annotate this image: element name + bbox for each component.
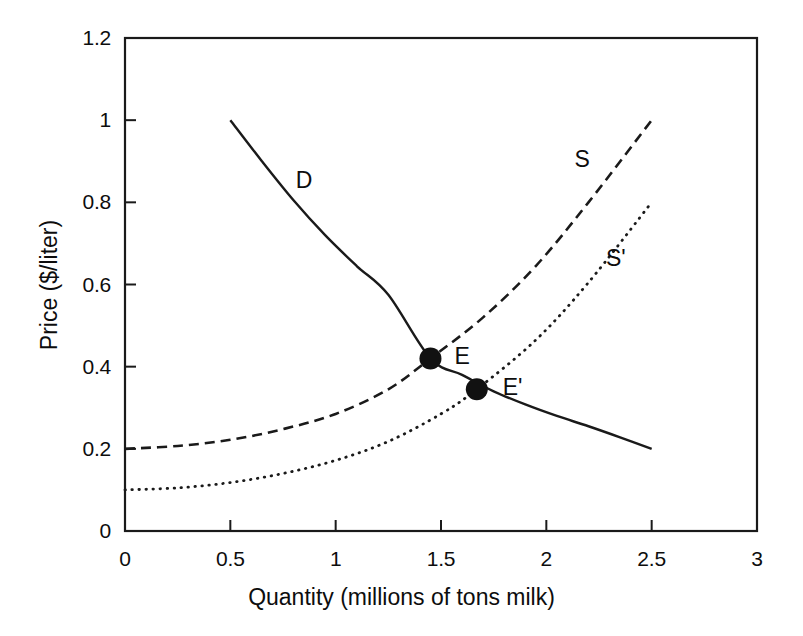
x-tick-label-2: 2 — [541, 547, 552, 571]
x-tick-label-0: 0 — [119, 547, 130, 571]
y-tick-label-1: 1 — [20, 108, 111, 132]
x-tick-label-2.5: 2.5 — [637, 547, 666, 571]
x-tick-label-3: 3 — [751, 547, 762, 571]
chart-plot-area — [0, 0, 803, 636]
supply-demand-chart: 00.20.40.60.811.2 00.511.522.53 DSS' EE'… — [0, 0, 803, 636]
y-tick-label-0: 0 — [20, 519, 111, 543]
curve-s-prime — [125, 202, 652, 490]
equilibrium-point-e — [419, 347, 441, 369]
y-tick-label-0.8: 0.8 — [20, 190, 111, 214]
equilibrium-point-e-prime — [466, 378, 488, 400]
annotation-label-e: E — [454, 343, 469, 370]
annotation-label-e-prime: E' — [503, 374, 523, 401]
curve-s — [125, 120, 652, 449]
y-axis-title: Price ($/liter) — [36, 25, 63, 545]
y-tick-label-0.6: 0.6 — [20, 273, 111, 297]
curve-group — [125, 120, 652, 490]
axis-frame — [125, 38, 757, 531]
x-tick-label-1.5: 1.5 — [427, 547, 456, 571]
x-tick-label-1: 1 — [330, 547, 341, 571]
y-tick-label-1.2: 1.2 — [20, 26, 111, 50]
curve-label-s: S — [574, 146, 589, 173]
curve-label-s-prime: S' — [606, 244, 626, 271]
axis-tick-marks — [125, 120, 652, 531]
x-axis-title: Quantity (millions of tons milk) — [0, 584, 803, 611]
x-tick-label-0.5: 0.5 — [216, 547, 245, 571]
curve-label-d: D — [296, 166, 313, 193]
y-tick-label-0.2: 0.2 — [20, 437, 111, 461]
y-tick-label-0.4: 0.4 — [20, 355, 111, 379]
